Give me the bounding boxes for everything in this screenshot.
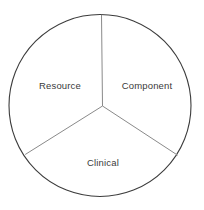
segment-label-resource: Resource [39,80,81,91]
segment-label-component: Component [122,80,172,91]
circle-diagram-svg [0,0,204,210]
circle-outline [9,15,191,197]
segmented-circle-diagram: Resource Component Clinical [0,0,204,210]
segment-label-clinical: Clinical [87,157,119,168]
